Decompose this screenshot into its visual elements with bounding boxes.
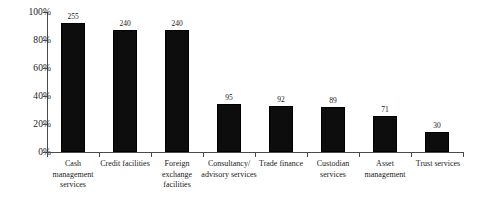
x-category-line: management: [357, 170, 413, 181]
x-tick-mark-icon: [255, 153, 256, 157]
x-category-line: Foreign: [151, 159, 203, 170]
x-tick-mark-icon: [99, 153, 100, 157]
bar-chart: 100% 80% 60% 40% 20% 0% 255 240: [0, 0, 487, 201]
x-tick-mark-icon: [203, 153, 204, 157]
bar-value-label: 92: [255, 95, 307, 104]
bar-rect: [321, 107, 345, 152]
plot-area: 255 240 240 95 92 89 71 30: [47, 12, 464, 152]
bar-value-label: 240: [99, 19, 151, 28]
x-category-line: Custodian: [307, 159, 359, 170]
x-category-label-custodian-services: Custodian services: [307, 159, 359, 180]
x-category-line: facilities: [151, 180, 203, 191]
bar-rect: [113, 30, 137, 152]
x-category-label-consultancy-advisory-services: Consultancy/ advisory services: [200, 159, 258, 180]
bar-trade-finance[interactable]: 92: [269, 12, 293, 152]
x-category-line: exchange: [151, 170, 203, 181]
bar-value-label: 95: [203, 93, 255, 102]
x-tick-mark-icon: [463, 153, 464, 157]
bar-cash-management-services[interactable]: 255: [61, 12, 85, 152]
bar-value-label: 240: [151, 19, 203, 28]
x-category-label-foreign-exchange-facilities: Foreign exchange facilities: [151, 159, 203, 191]
bar-rect: [165, 30, 189, 152]
bar-rect: [217, 104, 241, 152]
bar-rect: [61, 23, 85, 152]
bar-credit-facilities[interactable]: 240: [113, 12, 137, 152]
x-category-label-cash-management-services: Cash management services: [47, 159, 99, 191]
x-category-label-trade-finance: Trade finance: [253, 159, 309, 170]
bar-foreign-exchange-facilities[interactable]: 240: [165, 12, 189, 152]
bar-value-label: 71: [359, 105, 411, 114]
x-tick-mark-icon: [47, 153, 48, 157]
x-category-line: advisory services: [200, 170, 258, 181]
x-tick-mark-icon: [411, 153, 412, 157]
x-category-line: management: [47, 170, 99, 181]
x-tick-mark-icon: [307, 153, 308, 157]
bar-value-label: 255: [47, 12, 99, 21]
x-category-line: Cash: [47, 159, 99, 170]
x-category-line: Trade finance: [253, 159, 309, 170]
x-tick-mark-icon: [359, 153, 360, 157]
x-category-label-asset-management: Asset management: [357, 159, 413, 180]
bar-rect: [425, 132, 449, 152]
x-category-line: Credit facilities: [97, 159, 153, 170]
bar-trust-services[interactable]: 30: [425, 12, 449, 152]
x-category-label-trust-services: Trust services: [410, 159, 466, 170]
x-category-line: Asset: [357, 159, 413, 170]
bar-asset-management[interactable]: 71: [373, 12, 397, 152]
x-category-line: services: [307, 170, 359, 181]
bar-value-label: 89: [307, 96, 359, 105]
bar-value-label: 30: [411, 121, 463, 130]
x-category-line: services: [47, 180, 99, 191]
bar-rect: [269, 106, 293, 152]
x-category-label-credit-facilities: Credit facilities: [97, 159, 153, 170]
bar-consultancy-advisory-services[interactable]: 95: [217, 12, 241, 152]
x-category-line: Trust services: [410, 159, 466, 170]
bar-rect: [373, 116, 397, 152]
x-category-line: Consultancy/: [200, 159, 258, 170]
x-tick-mark-icon: [151, 153, 152, 157]
bar-custodian-services[interactable]: 89: [321, 12, 345, 152]
